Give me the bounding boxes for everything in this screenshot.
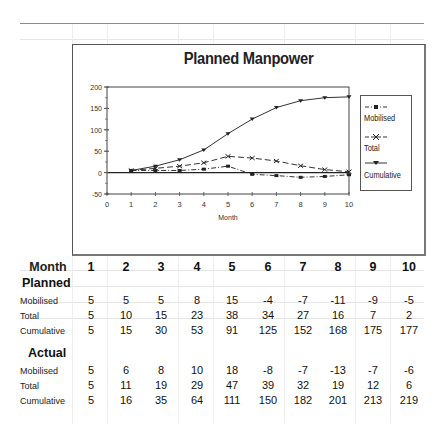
x-tick-label: 5	[226, 200, 230, 209]
table-row: Total511192947393219126	[20, 379, 430, 394]
table-row: Mobilised5681018-8-7-13-7-6	[20, 364, 430, 379]
table-cell[interactable]: 6	[111, 364, 141, 376]
x-tick-label: 4	[202, 200, 206, 209]
legend-label-cumulative: Cumulative	[364, 170, 401, 180]
y-tick-label: 200	[90, 84, 102, 91]
table-cell[interactable]: 201	[323, 394, 353, 406]
table-cell[interactable]: 39	[253, 379, 283, 391]
table-cell[interactable]: 111	[217, 394, 247, 406]
table-cell[interactable]: -7	[288, 294, 318, 306]
month-col-4: 4	[182, 260, 212, 274]
table-cell[interactable]: 64	[182, 394, 212, 406]
table-cell[interactable]: 19	[146, 379, 176, 391]
table-cell[interactable]: 6	[394, 379, 424, 391]
table-cell[interactable]: 15	[111, 324, 141, 336]
table-cell[interactable]: 152	[288, 324, 318, 336]
table-cell[interactable]: 182	[288, 394, 318, 406]
row-label: Total	[20, 311, 75, 321]
section-planned: Planned	[22, 276, 71, 290]
table-cell[interactable]: 7	[358, 309, 388, 321]
table-cell[interactable]: 5	[76, 364, 106, 376]
table-cell[interactable]: 5	[76, 294, 106, 306]
table-cell[interactable]: 150	[253, 394, 283, 406]
table-cell[interactable]: 5	[76, 309, 106, 321]
table-cell[interactable]: 177	[394, 324, 424, 336]
legend-label-total: Total	[364, 143, 380, 153]
table-cell[interactable]: -8	[253, 364, 283, 376]
data-point	[323, 175, 327, 178]
table-cell[interactable]: 27	[288, 309, 318, 321]
table-row: Total51015233834271672	[20, 309, 430, 324]
table-cell[interactable]: -11	[323, 294, 353, 306]
chart-legend[interactable]: Mobilised Total Cumulative	[360, 95, 412, 191]
table-cell[interactable]: 32	[288, 379, 318, 391]
table-cell[interactable]: 35	[146, 394, 176, 406]
legend-swatch-cumulative	[365, 160, 387, 166]
month-col-5: 5	[217, 260, 247, 274]
table-cell[interactable]: 5	[76, 379, 106, 391]
table-cell[interactable]: 5	[111, 294, 141, 306]
table-cell[interactable]: 10	[111, 309, 141, 321]
plot-border	[107, 87, 349, 194]
x-axis-label: Month	[218, 214, 238, 221]
chart-object[interactable]: Planned Manpower 200150100500-5001234567…	[72, 44, 426, 256]
table-cell[interactable]: 10	[182, 364, 212, 376]
table-row: Cumulative515305391125152168175177	[20, 324, 430, 339]
month-col-7: 7	[288, 260, 318, 274]
table-cell[interactable]: 38	[217, 309, 247, 321]
table-cell[interactable]: 29	[182, 379, 212, 391]
data-point	[274, 106, 279, 110]
x-tick-label: 3	[178, 200, 182, 209]
table-cell[interactable]: 8	[182, 294, 212, 306]
table-cell[interactable]: 47	[217, 379, 247, 391]
table-row: Mobilised555815-4-7-11-9-5	[20, 294, 430, 309]
month-col-2: 2	[111, 260, 141, 274]
month-col-6: 6	[253, 260, 283, 274]
table-cell[interactable]: 5	[76, 394, 106, 406]
table-cell[interactable]: -13	[323, 364, 353, 376]
data-point	[178, 169, 182, 172]
month-col-9: 9	[358, 260, 388, 274]
y-tick-label: 50	[94, 148, 102, 155]
month-col-10: 10	[394, 260, 424, 274]
table-cell[interactable]: 168	[323, 324, 353, 336]
top-rule	[20, 23, 424, 24]
data-point	[202, 168, 206, 171]
table-cell[interactable]: 23	[182, 309, 212, 321]
table-cell[interactable]: 15	[217, 294, 247, 306]
row-label: Mobilised	[20, 296, 75, 306]
table-cell[interactable]: 18	[217, 364, 247, 376]
table-cell[interactable]: 5	[146, 294, 176, 306]
row-label: Total	[20, 381, 75, 391]
table-cell[interactable]: 12	[358, 379, 388, 391]
table-cell[interactable]: 53	[182, 324, 212, 336]
data-point	[274, 174, 278, 177]
table-cell[interactable]: -5	[394, 294, 424, 306]
table-cell[interactable]: 2	[394, 309, 424, 321]
table-cell[interactable]: -6	[394, 364, 424, 376]
table-cell[interactable]: 16	[323, 309, 353, 321]
table-cell[interactable]: 15	[146, 309, 176, 321]
x-tick-label: 1	[129, 200, 133, 209]
table-cell[interactable]: -7	[358, 364, 388, 376]
table-cell[interactable]: 30	[146, 324, 176, 336]
table-cell[interactable]: 125	[253, 324, 283, 336]
table-cell[interactable]: 219	[394, 394, 424, 406]
legend-swatch-total	[365, 134, 387, 140]
table-cell[interactable]: -4	[253, 294, 283, 306]
table-cell[interactable]: 16	[111, 394, 141, 406]
table-cell[interactable]: 19	[323, 379, 353, 391]
table-cell[interactable]: 5	[76, 324, 106, 336]
table-cell[interactable]: 8	[146, 364, 176, 376]
table-cell[interactable]: -7	[288, 364, 318, 376]
y-tick-label: -50	[92, 191, 102, 198]
table-cell[interactable]: 11	[111, 379, 141, 391]
x-tick-label: 0	[105, 200, 109, 209]
section-actual: Actual	[28, 346, 66, 360]
table-cell[interactable]: 175	[358, 324, 388, 336]
table-row: Cumulative5163564111150182201213219	[20, 394, 430, 409]
table-cell[interactable]: 91	[217, 324, 247, 336]
table-cell[interactable]: 213	[358, 394, 388, 406]
table-cell[interactable]: 34	[253, 309, 283, 321]
table-cell[interactable]: -9	[358, 294, 388, 306]
